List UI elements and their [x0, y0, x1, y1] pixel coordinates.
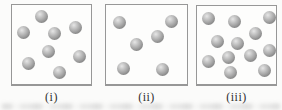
particle [202, 12, 215, 25]
particle [222, 51, 235, 64]
particle [228, 15, 241, 28]
particle [48, 27, 61, 40]
panel-label-i: (i) [11, 90, 92, 104]
particle-diagram: (i) (ii) (iii) [0, 0, 282, 110]
panel-iii: (iii) [0, 0, 282, 110]
particle [244, 49, 257, 62]
particle [249, 27, 262, 40]
particle [117, 62, 130, 75]
particle [224, 66, 237, 79]
panel-label-ii: (ii) [105, 90, 188, 104]
particle [211, 35, 224, 48]
particle [156, 63, 169, 76]
particle [35, 10, 48, 23]
particle [151, 30, 164, 43]
particle [53, 66, 66, 79]
particle [202, 55, 215, 68]
particle [130, 38, 143, 51]
scan-artifact [2, 104, 280, 109]
particle-box-iii [196, 5, 277, 86]
particle [73, 50, 86, 63]
particle [165, 15, 178, 28]
particle [113, 16, 126, 29]
panel-i: (i) [0, 0, 282, 110]
panel-ii: (ii) [0, 0, 282, 110]
particle [22, 57, 35, 70]
particle [231, 37, 244, 50]
panel-label-iii: (iii) [196, 90, 277, 104]
particle-box-i [11, 4, 92, 86]
particle [263, 11, 276, 24]
particle [263, 44, 276, 57]
particle [17, 26, 30, 39]
particle [258, 64, 271, 77]
particle [42, 45, 55, 58]
particle [69, 21, 82, 34]
particle-box-ii [105, 4, 188, 86]
